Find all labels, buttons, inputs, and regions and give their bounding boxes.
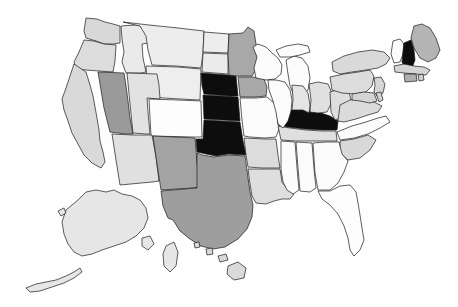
- state-newmexico[interactable]: [153, 136, 200, 190]
- state-rhodeisland[interactable]: [418, 74, 424, 81]
- state-hawaii-maui[interactable]: [218, 254, 228, 262]
- state-iowa[interactable]: [238, 77, 267, 97]
- map-canvas: [0, 0, 458, 307]
- state-washington[interactable]: [84, 18, 120, 44]
- state-newyork[interactable]: [332, 50, 390, 74]
- state-california[interactable]: [62, 64, 105, 168]
- state-colorado[interactable]: [149, 99, 202, 137]
- state-oregon[interactable]: [74, 40, 116, 72]
- state-maine[interactable]: [411, 24, 440, 62]
- state-alabama[interactable]: [296, 142, 316, 192]
- state-arizona[interactable]: [112, 134, 159, 185]
- state-northdakota[interactable]: [203, 32, 229, 53]
- state-kansas[interactable]: [203, 95, 240, 121]
- state-massachusetts[interactable]: [394, 64, 430, 75]
- state-connecticut[interactable]: [404, 74, 417, 82]
- state-nebraska[interactable]: [201, 73, 238, 96]
- state-hawaii-oahu[interactable]: [206, 248, 213, 255]
- state-florida[interactable]: [318, 185, 364, 256]
- state-arkansas[interactable]: [244, 138, 280, 168]
- state-ohio[interactable]: [309, 82, 332, 113]
- state-pennsylvania[interactable]: [330, 70, 374, 94]
- state-alaska-panhandle[interactable]: [163, 242, 178, 272]
- state-southdakota[interactable]: [202, 53, 228, 74]
- state-hawaii-kauai[interactable]: [194, 242, 200, 248]
- us-choropleth-map: [0, 0, 458, 307]
- state-alaska-island-2[interactable]: [142, 236, 154, 250]
- state-alaska-aleutians[interactable]: [26, 268, 82, 292]
- state-alaska[interactable]: [62, 190, 148, 256]
- state-oklahoma[interactable]: [196, 120, 246, 156]
- state-hawaii-bigisland[interactable]: [227, 262, 246, 280]
- state-michigan-up[interactable]: [276, 44, 310, 57]
